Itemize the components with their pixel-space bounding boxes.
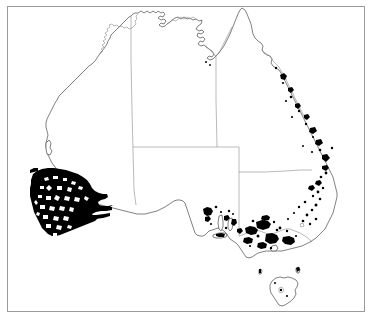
qld-patch-mackay [304, 114, 310, 120]
nsw-dot-7 [312, 195, 314, 197]
tasmania-group [259, 267, 300, 306]
nsw-dot-11 [302, 220, 305, 223]
tas-dot-1 [280, 289, 282, 291]
vic-dot-6 [270, 247, 272, 249]
spencer-gulf [218, 215, 223, 231]
sa-dot-4 [232, 213, 234, 215]
nsw-dot-4 [319, 198, 322, 201]
vic-dot-8 [257, 235, 260, 238]
vic-dot-5 [249, 245, 251, 247]
nsw-dot-6 [322, 187, 324, 189]
qld-dot-12 [331, 147, 333, 149]
sa-dot-5 [210, 223, 212, 225]
qld-dot-13 [205, 61, 207, 63]
qld-dot-7 [305, 123, 307, 125]
qld-dot-4 [285, 100, 287, 102]
sa-dot-3 [228, 210, 230, 212]
qld-dot-10 [311, 151, 313, 153]
tas-island-mark [259, 269, 261, 273]
nsw-dot-10 [293, 212, 295, 214]
nsw-dot-3 [315, 204, 318, 207]
vic-dot-2 [273, 221, 275, 223]
vic-dot-9 [276, 229, 279, 232]
vic-dot-7 [295, 235, 297, 237]
qld-dot-5 [298, 110, 300, 112]
vic-dot-1 [252, 220, 255, 223]
sa-dot-2 [220, 211, 222, 213]
nsw-dot-16 [325, 172, 328, 175]
nsw-dot-12 [309, 223, 311, 225]
tas-dot-3 [274, 282, 276, 284]
nsw-dot-1 [306, 214, 309, 217]
qld-dot-9 [319, 149, 322, 152]
qld-dot-6 [291, 116, 293, 118]
qld-dot-8 [312, 136, 314, 138]
nsw-dot-5 [317, 191, 320, 194]
nsw-dot-8 [304, 201, 307, 204]
vic-dot-4 [286, 230, 288, 232]
qld-dot-14 [209, 64, 211, 66]
sa-dot-6 [225, 227, 227, 229]
qld-dot-3 [290, 96, 293, 99]
tasmania-coastline [270, 277, 298, 306]
qld-dot-2 [282, 82, 284, 84]
sa-dot-1 [215, 206, 218, 209]
tas-dot-2 [286, 295, 288, 297]
distribution-map-figure: Distribution map of Australia Outline ma… [0, 0, 377, 320]
nsw-dot-2 [311, 209, 314, 212]
qld-dot-11 [302, 145, 304, 147]
nsw-dot-13 [315, 218, 318, 221]
nsw-dot-15 [320, 176, 323, 179]
nsw-dot-9 [298, 206, 300, 208]
vic-dot-3 [279, 227, 282, 230]
nsw-dot-14 [287, 218, 289, 220]
qld-dot-1 [275, 67, 277, 69]
australia-map [0, 0, 377, 320]
